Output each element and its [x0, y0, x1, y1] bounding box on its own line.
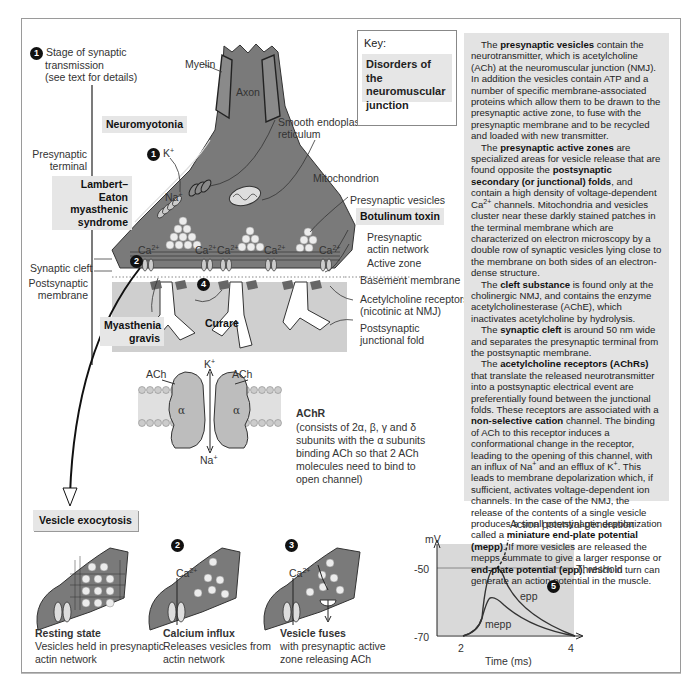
actin-network-label: Presynapticactin network	[367, 231, 429, 255]
stage-marker-icon: 1	[30, 47, 43, 60]
stage-2-exo-marker-icon: 2	[171, 539, 184, 552]
chart-annotation: Action potential generation	[510, 518, 634, 530]
para-synaptic-cleft: The synaptic cleft is around 50 nm wide …	[471, 324, 662, 358]
disorder-lambert-eaton: Lambert–Eatonmyasthenicsyndrome	[52, 176, 132, 230]
stage-2-marker-icon: 2	[130, 255, 143, 268]
chart-xtick-2: 2	[458, 642, 464, 654]
chart-xlabel: Time (ms)	[485, 655, 532, 667]
disorder-neuromyotonia: Neuromyotonia	[102, 116, 187, 133]
ca-ion-3: Ca2+	[217, 244, 238, 256]
chart-ytick-70: -70	[414, 631, 429, 643]
achr-label: Acetylcholine receptors(nicotinic at NMJ…	[360, 293, 469, 317]
mitochondrion-label: Mitochondrion	[313, 172, 379, 184]
basement-membrane-label: Basement membrane	[360, 274, 460, 286]
para-cleft-substance: The cleft substance is found only at the…	[471, 279, 662, 325]
achr-k-label: K+	[204, 358, 215, 370]
key-box: Key: Disorders of the neuromuscular junc…	[357, 30, 457, 126]
presynaptic-terminal-label: Presynapticterminal	[30, 148, 87, 172]
vesicle-exocytosis-title: Vesicle exocytosis	[33, 510, 138, 531]
para-achr: The acetylcholine receptors (AChRs) that…	[471, 358, 662, 586]
exo-step-fuses: Vesicle fuseswith presynaptic activezone…	[280, 627, 386, 666]
alpha-right-label: α	[233, 404, 240, 416]
exo-step-calcium: Calcium influxReleases vesicles fromacti…	[163, 627, 271, 666]
para-active-zones: The presynaptic active zones are special…	[471, 142, 662, 279]
key-title: Key:	[364, 37, 456, 49]
disorder-curare: Curare	[205, 317, 239, 329]
disorder-myasthenia-gravis: Myastheniagravis	[100, 317, 164, 346]
axon-label: Axon	[236, 86, 260, 98]
chart-threshold-label: Threshold	[576, 563, 623, 575]
chart-ylabel: mV	[425, 533, 441, 545]
para-vesicles: The presynaptic vesicles contain the neu…	[471, 39, 662, 142]
chart-ytick-50: -50	[414, 563, 429, 575]
disorder-botulinum: Botulinum toxin	[356, 208, 444, 225]
postsynaptic-membrane-label: Postsynapticmembrane	[24, 277, 88, 301]
achr-na-label: Na+	[200, 454, 218, 466]
achr-title: AChR	[296, 407, 325, 419]
vesicles-label: Presynaptic vesicles	[350, 194, 445, 206]
ca-ion-5: Ca2+	[319, 244, 340, 256]
ca-ion-4: Ca2+	[264, 244, 285, 256]
myelin-label: Myelin	[185, 58, 215, 70]
stage-legend-line2: transmission	[45, 59, 104, 71]
stage-3-marker-icon: 3	[285, 539, 298, 552]
ach-left-label: ACh	[146, 368, 166, 380]
chart-epp-label: epp	[520, 590, 538, 602]
ach-right-label: ACh	[232, 368, 252, 380]
alpha-left-label: α	[178, 404, 185, 416]
junctional-fold-label: Postsynapticjunctional fold	[360, 322, 424, 346]
ca-ion-2: Ca2+	[195, 244, 216, 256]
stage-1-marker-icon: 1	[147, 148, 160, 161]
k-ion-label: 1 K+	[147, 147, 174, 161]
na-ion-label: Na+	[165, 191, 183, 203]
exo-step-resting: Resting stateVesicles held in presynapti…	[35, 627, 164, 666]
stage-legend-line3: (see text for details)	[45, 71, 137, 83]
stage-5-marker-icon: 5	[547, 580, 560, 593]
stage-legend: 1 Stage of synaptic	[30, 46, 126, 60]
chart-mepp-label: mepp	[485, 618, 511, 630]
exo-ca-label-3: Ca2+	[289, 567, 310, 579]
achr-description: (consists of 2α, β, γ and δsubunits with…	[296, 421, 425, 486]
active-zone-label: Active zone	[367, 257, 421, 269]
ca-ion-1: Ca2+	[138, 244, 159, 256]
key-disorders-label: Disorders of the neuromuscular junction	[362, 54, 452, 102]
exocytosis-panels	[37, 548, 360, 630]
explanation-panel: The presynaptic vesicles contain the neu…	[464, 33, 669, 501]
exo-ca-label-2: Ca2+	[176, 567, 197, 579]
synaptic-cleft-label: Synaptic cleft	[30, 262, 92, 274]
chart-xtick-4: 4	[568, 642, 574, 654]
stage-4-marker-icon: 4	[197, 278, 210, 291]
achr-diagram	[138, 369, 282, 453]
